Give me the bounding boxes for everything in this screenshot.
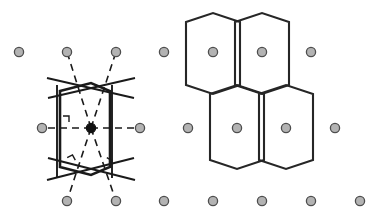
lattice-point xyxy=(330,123,339,132)
figure-svg xyxy=(0,0,385,219)
lattice-point xyxy=(183,123,192,132)
lattice-point xyxy=(281,123,290,132)
figure-container xyxy=(0,0,385,219)
lattice-point xyxy=(159,47,168,56)
lattice-point xyxy=(306,196,315,205)
lattice-point xyxy=(355,196,364,205)
lattice-point xyxy=(208,47,217,56)
lattice-point xyxy=(62,196,71,205)
lattice-point xyxy=(306,47,315,56)
origin-lattice-point xyxy=(86,123,95,132)
lattice-point xyxy=(208,196,217,205)
lattice-point xyxy=(257,47,266,56)
lattice-point xyxy=(37,123,46,132)
lattice-point xyxy=(111,196,120,205)
lattice-point xyxy=(232,123,241,132)
lattice-point xyxy=(159,196,168,205)
lattice-point xyxy=(62,47,71,56)
lattice-point xyxy=(257,196,266,205)
lattice-point xyxy=(135,123,144,132)
lattice-point xyxy=(111,47,120,56)
lattice-point xyxy=(14,47,23,56)
